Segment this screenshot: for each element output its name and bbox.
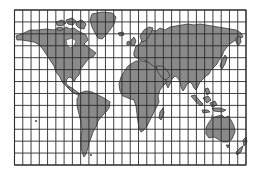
pacific-island-dot (35, 120, 37, 122)
falkland-islands (90, 154, 92, 156)
landmass-australia (206, 115, 235, 142)
world-map (0, 0, 260, 172)
world-map-svg (0, 0, 260, 172)
landmass-greenland (90, 12, 116, 39)
landmass-kamchatka (236, 36, 241, 46)
landmass-tasmania (226, 145, 229, 148)
landmass-british-isles (127, 37, 136, 46)
